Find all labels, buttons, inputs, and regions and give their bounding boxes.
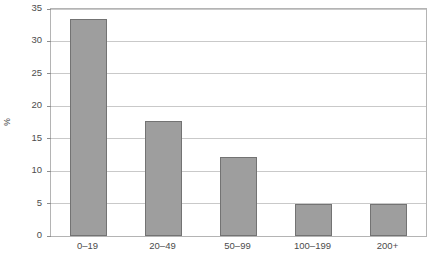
x-axis-tick-label: 200+ xyxy=(350,240,425,252)
x-axis-tick-label: 0–19 xyxy=(50,240,125,252)
bar xyxy=(220,157,258,236)
bar xyxy=(370,204,408,236)
bar xyxy=(70,19,108,236)
x-axis-tick-label: 50–99 xyxy=(200,240,275,252)
bar-chart: % 05101520253035 0–1920–4950–99100–19920… xyxy=(0,0,436,264)
y-axis-tick-label: 35 xyxy=(31,3,42,13)
y-axis-tick-label: 20 xyxy=(31,100,42,110)
x-axis-tick-labels: 0–1920–4950–99100–199200+ xyxy=(50,240,427,256)
y-axis-tick-labels: 05101520253035 xyxy=(14,0,46,264)
y-axis-tick-label: 15 xyxy=(31,133,42,143)
x-axis-tick-label: 100–199 xyxy=(275,240,350,252)
x-axis-tick-label: 20–49 xyxy=(125,240,200,252)
y-axis-tick-label: 10 xyxy=(31,165,42,175)
y-axis-tick-label: 5 xyxy=(37,198,42,208)
y-axis-tick-label: 25 xyxy=(31,68,42,78)
bar xyxy=(145,121,183,236)
plot-area xyxy=(50,8,427,237)
bar xyxy=(295,204,333,236)
bars-group xyxy=(51,9,426,236)
y-axis-tick-label: 0 xyxy=(37,230,42,240)
y-axis-tick-label: 30 xyxy=(31,35,42,45)
